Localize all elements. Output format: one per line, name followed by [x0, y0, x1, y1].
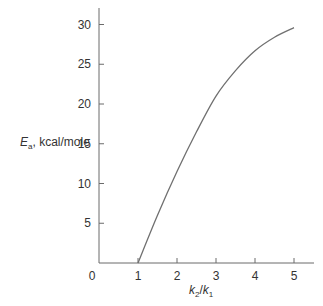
y-tick-label: 5 — [84, 216, 91, 230]
x-tick-label: 5 — [291, 269, 298, 283]
x-tick-label: 1 — [135, 269, 142, 283]
origin-label: 0 — [89, 269, 96, 283]
x-tick-label: 4 — [252, 269, 259, 283]
y-tick-label: 30 — [78, 18, 92, 32]
x-axis-label: k2/k1 — [189, 283, 213, 299]
y-axis-symbol: E — [20, 135, 28, 149]
chart-canvas: 51015202530012345 — [0, 0, 323, 306]
x-axis-k1-sub: 1 — [209, 290, 213, 299]
y-tick-label: 25 — [78, 57, 92, 71]
x-tick-label: 2 — [174, 269, 181, 283]
data-curve — [138, 28, 294, 263]
y-tick-label: 10 — [78, 177, 92, 191]
y-axis-units: , kcal/mole — [32, 135, 89, 149]
x-tick-label: 3 — [213, 269, 220, 283]
y-tick-label: 20 — [78, 97, 92, 111]
y-axis-label: Ea, kcal/mole — [20, 135, 90, 151]
